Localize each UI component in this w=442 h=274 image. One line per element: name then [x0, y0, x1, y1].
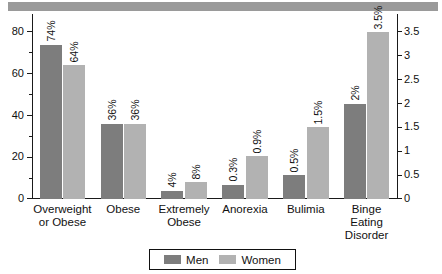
category-label-1: Obese [93, 203, 154, 216]
y-tick-right [397, 151, 402, 152]
y-tick-label-right: 0.5 [404, 169, 419, 180]
y-tick-label-right: 3 [404, 50, 410, 61]
y-tick-label-right: 2 [404, 98, 410, 109]
bar-value-label: 0.3% [228, 158, 239, 182]
y-tick-label-right: 0 [404, 193, 410, 204]
bar-value-label: 36% [130, 100, 141, 121]
legend-label-men: Men [186, 254, 208, 266]
y-tick-label-left: 0 [18, 193, 24, 204]
legend-swatch-men [164, 255, 181, 264]
bar-value-label: 2% [349, 85, 360, 100]
bar-women-2 [185, 182, 207, 199]
y-tick-label-left: 60 [12, 68, 24, 79]
chart-figure: 020406080 00.511.522.533.5 74%64%36%36%4… [0, 0, 442, 274]
bar-women-0 [63, 65, 85, 199]
y-tick-right [397, 79, 402, 80]
legend-swatch-women [219, 255, 236, 264]
category-label-0: Overweight or Obese [32, 203, 93, 229]
y-axis-right [397, 14, 398, 199]
bar-value-label: 0.9% [251, 129, 262, 153]
y-tick-right [397, 175, 402, 176]
bar-value-label: 8% [190, 164, 201, 179]
category-label-3: Anorexia [215, 203, 276, 216]
bar-men-4 [283, 175, 305, 199]
bar-women-1 [124, 124, 146, 199]
y-tick-right [397, 31, 402, 32]
plot-area: 74%64%36%36%4%8%0.3%0.9%0.5%1.5%2%3.5% [32, 14, 397, 199]
y-tick-label-left: 20 [12, 151, 24, 162]
bar-women-4 [307, 127, 329, 199]
bar-value-label: 3.5% [373, 5, 384, 29]
y-tick-label-left: 80 [12, 26, 24, 37]
bar-value-label: 1.5% [312, 101, 323, 125]
y-tick-label-left: 40 [12, 110, 24, 121]
legend-label-women: Women [241, 254, 280, 266]
y-tick-label-right: 2.5 [404, 74, 419, 85]
bar-value-label: 64% [69, 41, 80, 62]
category-label-4: Bulimia [275, 203, 336, 216]
bar-men-2 [161, 191, 183, 199]
y-tick-label-right: 1.5 [404, 121, 419, 132]
bar-value-label: 74% [45, 21, 56, 42]
chart-legend: Men Women [149, 249, 296, 270]
y-tick-right [397, 198, 402, 199]
y-tick-right [397, 127, 402, 128]
bar-women-3 [246, 156, 268, 199]
category-label-2: Extremely Obese [154, 203, 215, 229]
bar-men-3 [222, 185, 244, 199]
legend-item-men: Men [164, 254, 208, 266]
bar-value-label: 36% [106, 100, 117, 121]
legend-item-women: Women [219, 254, 280, 266]
bar-men-5 [344, 104, 366, 199]
y-tick-right [397, 103, 402, 104]
bar-value-label: 0.5% [289, 148, 300, 172]
category-label-5: Binge Eating Disorder [336, 203, 397, 242]
y-tick-label-right: 3.5 [404, 26, 419, 37]
y-tick-label-right: 1 [404, 145, 410, 156]
bar-men-0 [40, 45, 62, 199]
y-tick-right [397, 55, 402, 56]
bar-value-label: 4% [167, 172, 178, 187]
bar-women-5 [367, 32, 389, 199]
bar-men-1 [101, 124, 123, 199]
